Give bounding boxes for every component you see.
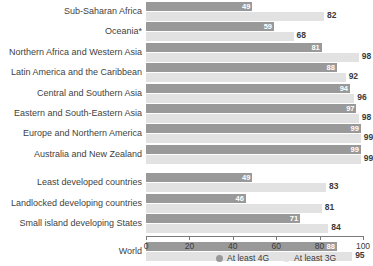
category-label: Northern Africa and Western Asia — [9, 47, 142, 57]
bar-value-4g: 88 — [327, 63, 335, 72]
x-axis-tick-label: 80 — [315, 241, 324, 251]
bar-3g — [146, 73, 346, 82]
bar-4g: 94 — [146, 84, 350, 93]
bar-4g: 59 — [146, 22, 274, 31]
chart-row: Sub-Saharan Africa4982 — [0, 2, 370, 22]
bar-4g: 99 — [146, 124, 361, 133]
chart-row: Europe and Northern America9999 — [0, 124, 370, 144]
category-label: World — [119, 246, 142, 256]
legend-item-3g: At least 3G — [283, 253, 336, 263]
category-label: Small island developing States — [19, 218, 142, 228]
bar-value-4g: 99 — [350, 145, 358, 154]
bar-value-3g: 68 — [297, 30, 306, 40]
chart-row: Australia and New Zealand9999 — [0, 145, 370, 165]
x-axis-tick — [276, 236, 277, 240]
bar-4g: 88 — [146, 242, 337, 251]
category-label: Oceania* — [105, 26, 142, 36]
chart-row: Oceania*5968 — [0, 22, 370, 42]
x-axis-tick-label: 0 — [144, 241, 149, 251]
bar-value-4g: 88 — [327, 242, 335, 251]
bar-value-3g: 99 — [364, 132, 373, 142]
bar-value-4g: 94 — [340, 84, 348, 93]
chart-row: Central and Southern Asia9496 — [0, 84, 370, 104]
x-axis-tick — [320, 236, 321, 240]
legend-label-3g: At least 3G — [294, 253, 336, 263]
x-axis-tick — [146, 236, 147, 240]
bar-value-3g: 98 — [362, 51, 371, 61]
chart-row: Small island developing States7184 — [0, 214, 370, 234]
category-label: Eastern and South-Eastern Asia — [14, 108, 142, 118]
bar-value-3g: 81 — [325, 202, 334, 212]
x-axis-tick-label: 20 — [185, 241, 194, 251]
bar-4g: 81 — [146, 43, 322, 52]
category-label: Europe and Northern America — [23, 128, 142, 138]
bar-4g: 49 — [146, 2, 252, 11]
bar-3g — [146, 224, 328, 233]
x-axis-tick — [363, 236, 364, 240]
bar-value-3g: 95 — [355, 250, 364, 260]
bar-value-3g: 84 — [331, 222, 340, 232]
category-label: Landlocked developing countries — [11, 198, 142, 208]
bar-4g: 88 — [146, 63, 337, 72]
legend-swatch-4g-icon — [216, 255, 223, 262]
bar-value-3g: 96 — [357, 92, 366, 102]
bar-3g — [146, 114, 359, 123]
bar-4g: 97 — [146, 104, 356, 113]
bar-value-3g: 99 — [364, 153, 373, 163]
bar-value-3g: 83 — [329, 181, 338, 191]
bar-value-4g: 71 — [290, 214, 298, 223]
bar-3g — [146, 134, 361, 143]
chart-row: Northern Africa and Western Asia8198 — [0, 43, 370, 63]
chart-row: Least developed countries4983 — [0, 173, 370, 193]
category-label: Sub-Saharan Africa — [64, 6, 142, 16]
chart-row: Latin America and the Caribbean8892 — [0, 63, 370, 83]
bar-4g: 71 — [146, 214, 300, 223]
x-axis-tick-label: 40 — [228, 241, 237, 251]
legend-swatch-3g-icon — [283, 255, 290, 262]
bar-3g — [146, 12, 324, 21]
legend-item-4g: At least 4G — [216, 253, 269, 263]
bar-value-3g: 92 — [349, 71, 358, 81]
bar-3g — [146, 183, 326, 192]
bar-value-3g: 98 — [362, 112, 371, 122]
bar-value-4g: 59 — [264, 22, 272, 31]
bar-3g — [146, 32, 294, 41]
chart-legend: At least 4G At least 3G — [216, 253, 336, 263]
bar-value-4g: 49 — [242, 173, 250, 182]
category-label: Least developed countries — [37, 177, 142, 187]
x-axis-line — [146, 236, 363, 237]
bar-3g — [146, 53, 359, 62]
bar-value-4g: 99 — [350, 124, 358, 133]
chart-row: Landlocked developing countries4681 — [0, 194, 370, 214]
bar-3g — [146, 155, 361, 164]
bar-3g — [146, 94, 354, 103]
bar-4g: 49 — [146, 173, 252, 182]
legend-label-4g: At least 4G — [227, 253, 269, 263]
x-axis-tick — [189, 236, 190, 240]
x-axis-tick-label: 60 — [271, 241, 280, 251]
category-label: Australia and New Zealand — [34, 149, 142, 159]
chart-row: Eastern and South-Eastern Asia9798 — [0, 104, 370, 124]
x-axis-tick-label: 100 — [356, 241, 370, 251]
x-axis-tick — [233, 236, 234, 240]
bar-value-3g: 82 — [327, 10, 336, 20]
category-label: Latin America and the Caribbean — [11, 67, 142, 77]
bar-value-4g: 81 — [311, 43, 319, 52]
bar-value-4g: 97 — [346, 104, 354, 113]
bar-4g: 46 — [146, 194, 246, 203]
bar-value-4g: 49 — [242, 2, 250, 11]
bar-value-4g: 46 — [235, 194, 243, 203]
category-label: Central and Southern Asia — [37, 88, 142, 98]
bar-3g — [146, 204, 322, 213]
bar-4g: 99 — [146, 145, 361, 154]
